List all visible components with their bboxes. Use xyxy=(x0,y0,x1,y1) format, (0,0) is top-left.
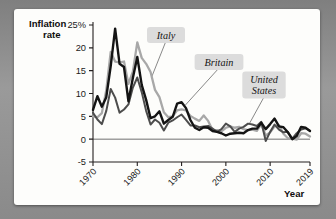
figure-background: ItalyBritainUnitedStates 25%20151050-519… xyxy=(0,0,336,219)
y-axis-title-line1: Inflation xyxy=(29,18,66,29)
callout-leader-line-britain xyxy=(185,68,219,105)
x-axis-tick-label: 2010 xyxy=(254,166,275,187)
inflation-rate-line-chart: ItalyBritainUnitedStates 25%20151050-519… xyxy=(14,9,320,205)
y-axis-title-line2: rate xyxy=(43,29,61,40)
x-axis-tick-label: 2000 xyxy=(210,166,231,187)
callout-label-united-states: States xyxy=(252,85,276,96)
x-axis-tick-label: 1980 xyxy=(121,166,142,187)
callout-leader-line-italy xyxy=(151,41,166,78)
y-axis-tick-label: 15 xyxy=(76,66,86,76)
figure-card: ItalyBritainUnitedStates 25%20151050-519… xyxy=(14,9,320,205)
callout-label-united-states: United xyxy=(250,74,279,85)
x-axis-tick-label: 1990 xyxy=(166,166,187,187)
y-axis-tick-label: 25% xyxy=(67,20,86,30)
x-axis-title: Year xyxy=(284,188,305,199)
callout-label-britain: Britain xyxy=(205,57,234,68)
x-axis-tick-label: 1970 xyxy=(77,166,98,187)
y-axis-tick-label: -5 xyxy=(78,157,86,167)
y-axis-tick-label: 5 xyxy=(81,112,86,122)
callout-label-italy: Italy xyxy=(156,30,176,41)
callout-leader-line-united-states xyxy=(249,97,264,125)
x-axis-tick-label: 2019 xyxy=(294,166,315,187)
callout-annotations-layer: ItalyBritainUnitedStates xyxy=(147,27,286,125)
y-axis-tick-label: 0 xyxy=(81,135,86,145)
y-axis-tick-label: 20 xyxy=(76,43,86,53)
y-axis-tick-label: 10 xyxy=(76,89,86,99)
